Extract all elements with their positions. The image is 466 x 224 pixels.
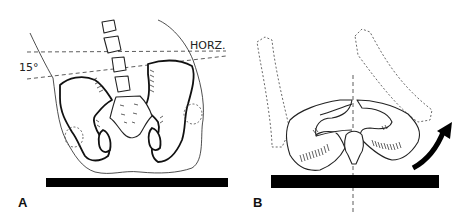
sacrum-axial <box>345 131 364 164</box>
horz-label: HORZ. <box>190 39 226 52</box>
panel-label-b: B <box>253 195 262 210</box>
lumbar-spine <box>102 20 130 92</box>
left-obturator <box>99 130 111 152</box>
table-bar-b <box>271 175 439 188</box>
table-bar-a <box>46 178 228 187</box>
panel-a: HORZ. 15° <box>18 20 228 210</box>
pelvis-diagram: HORZ. 15° <box>0 0 466 224</box>
right-hemipelvis-axial <box>357 100 420 160</box>
panel-label-a: A <box>18 195 28 210</box>
panel-b: B <box>253 29 452 212</box>
angle-label: 15° <box>19 61 39 74</box>
left-femur <box>257 37 290 147</box>
tilted-reference-line <box>27 56 226 79</box>
sacrum <box>110 96 152 138</box>
